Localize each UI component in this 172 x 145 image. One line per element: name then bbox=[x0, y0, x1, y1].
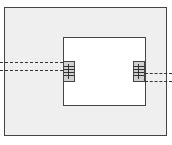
left-dashed-line-top bbox=[0, 62, 63, 63]
right-dashed-line-bottom bbox=[145, 81, 172, 82]
left-dashed-line-bottom bbox=[0, 70, 63, 71]
right-dashed-line-top bbox=[145, 73, 172, 74]
right-connector-icon bbox=[133, 61, 145, 82]
left-connector-icon bbox=[63, 61, 75, 82]
